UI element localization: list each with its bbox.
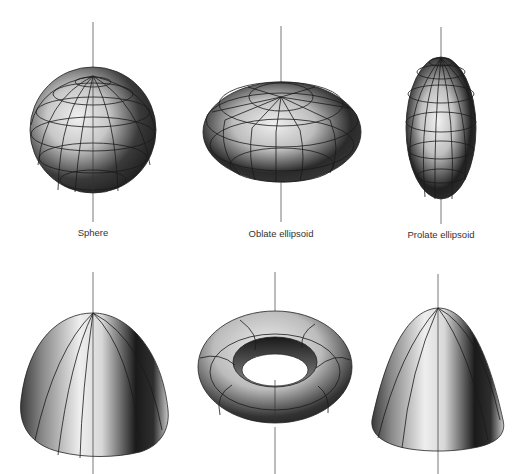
torus-diagram bbox=[198, 272, 352, 474]
oblate-ellipsoid-diagram bbox=[203, 26, 361, 222]
sphere-label: Sphere bbox=[78, 227, 109, 238]
narrow-paraboloid-diagram bbox=[372, 274, 504, 474]
sphere-diagram bbox=[30, 22, 156, 222]
wide-paraboloid-diagram bbox=[21, 272, 169, 474]
oblate-ellipsoid-label: Oblate ellipsoid bbox=[249, 228, 314, 239]
prolate-ellipsoid-diagram bbox=[406, 27, 476, 224]
prolate-ellipsoid-label: Prolate ellipsoid bbox=[407, 229, 474, 240]
